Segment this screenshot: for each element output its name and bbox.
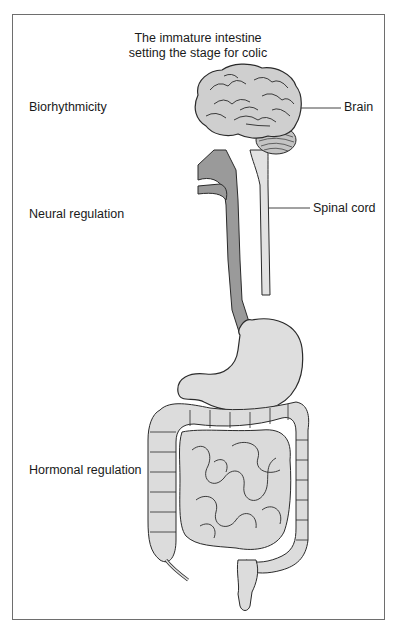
small-intestine-icon (180, 430, 291, 550)
anatomy-illustration (0, 0, 396, 631)
rectum-icon (237, 560, 257, 611)
esophagus-icon (198, 150, 250, 335)
stomach-icon (178, 319, 303, 412)
brain-icon (195, 64, 301, 138)
spinal-cord-icon (250, 150, 270, 295)
